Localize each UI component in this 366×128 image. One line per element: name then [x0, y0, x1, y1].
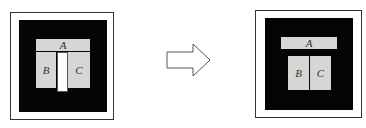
after-block-b-label: B — [295, 67, 302, 79]
after-panel-field — [265, 18, 353, 110]
before-block-a-label: A — [60, 39, 67, 51]
after-block-a-label: A — [306, 37, 313, 49]
after-block-b: B — [288, 56, 309, 90]
before-block-a: A — [36, 39, 90, 51]
before-block-c-label: C — [75, 64, 82, 76]
after-block-c: C — [310, 56, 331, 90]
right-arrow-icon — [165, 42, 213, 78]
after-block-a: A — [281, 37, 337, 49]
before-white-gap — [57, 52, 68, 92]
after-block-c-label: C — [317, 67, 324, 79]
before-block-c: C — [68, 52, 90, 88]
before-block-b-label: B — [43, 64, 50, 76]
before-block-b: B — [36, 52, 56, 88]
